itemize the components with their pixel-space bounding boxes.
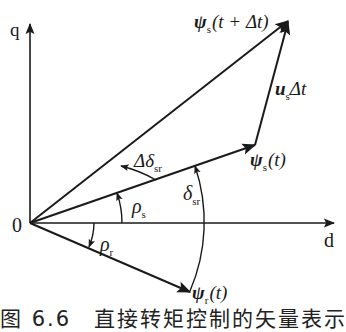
psi-r-t-label: ψr(t) — [192, 282, 227, 306]
psi-s-t-dt-vector — [30, 21, 288, 223]
rho-s-label: ρs — [131, 195, 146, 220]
rho-s-arc — [117, 193, 122, 223]
delta-sr-label: δsr — [183, 182, 201, 207]
psi-s-t-dt-label: ψs(t + Δt) — [194, 11, 269, 35]
rho-r-label: ρr — [99, 233, 114, 258]
delta-delta-sr-label: Δδsr — [133, 150, 162, 174]
rho-r-arc — [89, 223, 94, 247]
us-dt-label: usΔt — [275, 78, 307, 102]
d-axis-label: d — [324, 229, 334, 251]
figure-caption: 图 6.6 直接转矩控制的矢量表示 — [0, 306, 346, 332]
q-axis-label: q — [10, 19, 20, 40]
origin-label: 0 — [12, 214, 22, 236]
psi-s-t-label: ψs(t) — [250, 149, 286, 173]
